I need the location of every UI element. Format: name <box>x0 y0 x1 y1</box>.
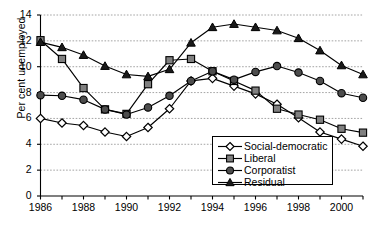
x-tick-label: 1992 <box>150 201 190 213</box>
data-point <box>144 104 151 111</box>
data-point <box>80 84 87 91</box>
data-point <box>230 20 239 28</box>
data-point <box>58 55 65 62</box>
data-point <box>230 76 237 83</box>
data-point <box>144 81 151 88</box>
data-point <box>295 69 302 76</box>
y-tick-label: 10 <box>10 60 32 72</box>
data-point <box>359 129 366 136</box>
data-point <box>295 111 302 118</box>
data-point <box>123 111 130 118</box>
data-point <box>316 128 324 136</box>
y-tick-label: 12 <box>10 34 32 46</box>
data-point <box>58 119 66 127</box>
data-point <box>359 142 367 150</box>
data-point <box>337 135 345 143</box>
data-point <box>101 128 109 136</box>
x-tick-label: 2000 <box>322 201 362 213</box>
data-point <box>187 55 194 62</box>
data-point <box>79 121 87 129</box>
data-point <box>337 61 346 69</box>
data-point <box>316 46 325 54</box>
legend-item-liberal: Liberal <box>217 153 327 165</box>
data-point <box>359 94 366 101</box>
data-point <box>338 125 345 132</box>
data-point <box>273 62 280 69</box>
data-point <box>166 57 173 64</box>
series-line <box>41 66 364 114</box>
x-tick-label: 1990 <box>107 201 147 213</box>
plot-area <box>0 0 379 226</box>
legend-marker-icon <box>217 177 243 188</box>
data-point <box>209 68 216 75</box>
legend-label: Corporatist <box>243 165 295 176</box>
y-tick-label: 2 <box>10 163 32 175</box>
data-point <box>338 90 345 97</box>
legend-marker-icon <box>217 153 243 164</box>
legend-item-social-democratic: Social-democratic <box>217 141 327 153</box>
data-point <box>58 92 65 99</box>
chart-container: Per cent unemployed 02468101214 19861988… <box>0 0 379 226</box>
x-tick-label: 1986 <box>21 201 61 213</box>
y-tick-label: 0 <box>10 189 32 201</box>
legend-label: Social-democratic <box>243 141 327 152</box>
data-point <box>187 38 196 46</box>
data-series-layer <box>36 20 367 151</box>
series-residual <box>36 20 367 80</box>
x-tick-label: 1996 <box>236 201 276 213</box>
data-point <box>294 34 303 42</box>
data-point <box>316 116 323 123</box>
chart-legend: Social-democraticLiberalCorporatistResid… <box>212 136 333 185</box>
data-point <box>80 96 87 103</box>
data-point <box>316 77 323 84</box>
data-point <box>37 91 44 98</box>
data-point <box>252 87 259 94</box>
x-tick-label: 1994 <box>193 201 233 213</box>
y-tick-label: 8 <box>10 86 32 98</box>
data-point <box>359 70 368 78</box>
data-point <box>79 51 88 59</box>
legend-marker-icon <box>217 165 243 176</box>
data-point <box>101 106 108 113</box>
data-point <box>122 132 130 140</box>
legend-item-corporatist: Corporatist <box>217 165 327 177</box>
data-point <box>273 105 280 112</box>
data-point <box>36 114 44 122</box>
data-point <box>187 77 194 84</box>
y-tick-label: 6 <box>10 111 32 123</box>
legend-label: Liberal <box>243 153 276 164</box>
x-tick-label: 1998 <box>279 201 319 213</box>
legend-item-residual: Residual <box>217 177 327 189</box>
data-point <box>101 62 110 70</box>
data-point <box>122 70 131 78</box>
x-tick-label: 1988 <box>64 201 104 213</box>
legend-label: Residual <box>243 177 285 188</box>
data-point <box>252 68 259 75</box>
series-line <box>41 24 364 76</box>
legend-marker-icon <box>217 141 243 152</box>
data-point <box>166 92 173 99</box>
y-tick-label: 4 <box>10 137 32 149</box>
y-tick-label: 14 <box>10 8 32 20</box>
